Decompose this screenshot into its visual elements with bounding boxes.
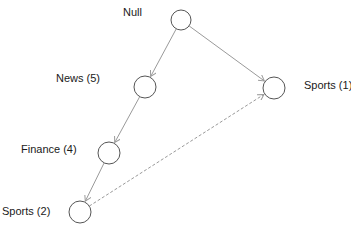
edges-layer (0, 0, 351, 230)
node-news (134, 76, 156, 98)
node-label-finance: Finance (4) (21, 143, 77, 155)
node-label-sports1: Sports (1) (304, 79, 351, 91)
edge-news-to-finance (115, 97, 140, 143)
edge-null-to-sports1 (189, 26, 264, 81)
node-sports1 (263, 77, 285, 99)
edge-finance-to-sports2 (85, 163, 104, 201)
node-label-sports2: Sports (2) (2, 205, 50, 217)
node-label-null: Null (123, 6, 142, 18)
node-sports2 (69, 201, 91, 223)
node-null (171, 10, 191, 30)
node-label-news: News (5) (56, 72, 100, 84)
edge-null-to-news (151, 29, 177, 77)
node-finance (98, 142, 120, 164)
diagram-canvas: NullNews (5)Sports (1)Finance (4)Sports … (0, 0, 351, 230)
